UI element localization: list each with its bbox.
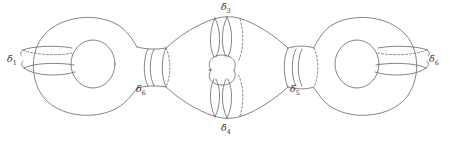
delta3-curve-a (210, 18, 215, 57)
left-neck-curve-a (144, 49, 148, 86)
figure-canvas: δ1 δ6 δ3 δ4 δ5 δ6 (0, 0, 450, 141)
label-delta-4-subscript: 4 (227, 128, 231, 136)
right-handle-upper-lip (378, 46, 427, 50)
left-handle-upper-lip (23, 46, 72, 50)
left-torus-hole (71, 40, 115, 88)
right-torus-outline-upper (314, 25, 332, 47)
label-delta-2: δ6 (136, 84, 146, 96)
delta4-dashed (238, 74, 243, 116)
left-handle-connector-upper (21, 50, 23, 56)
right-handle-lower-lip-bottom (375, 68, 426, 75)
label-delta-5: δ5 (290, 84, 300, 96)
left-neck-front-arc (162, 48, 166, 87)
delta3-curve-a2 (215, 18, 220, 57)
left-handle-connector-lower (22, 61, 24, 68)
right-neck-front-arc (284, 48, 288, 87)
center-hole-left-pinch (209, 69, 211, 70)
delta4-curve-b2 (227, 79, 232, 118)
center-top-outline (166, 17, 288, 48)
right-neck-dashed-ellipse (314, 48, 318, 87)
left-torus-outline (33, 17, 137, 115)
label-delta-1: δ1 (7, 54, 17, 66)
right-handle-lower-lip (376, 63, 426, 68)
right-torus-hole (335, 40, 379, 88)
label-delta-3-subscript: 3 (227, 7, 231, 15)
left-handle-lower-lip-bottom (24, 68, 75, 75)
left-torus-outline-upper (118, 25, 137, 47)
delta3-dashed (238, 19, 243, 62)
delta3-curve-b2 (227, 17, 232, 57)
center-hole-upper (209, 55, 235, 70)
label-delta-5-subscript: 5 (296, 89, 300, 97)
right-handle-upper-lip-dash (378, 50, 427, 55)
label-delta-4: δ4 (221, 123, 231, 135)
center-hole-lower (209, 70, 235, 85)
right-neck-curve-b (298, 49, 302, 86)
left-handle-lower-lip (24, 63, 74, 68)
delta3-curve-b (222, 17, 227, 57)
right-torus-outline (314, 17, 417, 115)
surface-diagram-svg (0, 0, 450, 141)
label-delta-2-subscript: 6 (142, 89, 146, 97)
center-bottom-outline (166, 87, 288, 118)
left-neck-dashed-ellipse (166, 48, 170, 87)
right-neck-top (288, 46, 314, 48)
left-neck-curve-b (150, 49, 154, 86)
delta4-curve-a (210, 79, 215, 117)
left-handle-upper-lip-dash (23, 50, 72, 55)
label-delta-6-subscript: 6 (435, 59, 439, 67)
right-neck-curve-a (292, 49, 296, 86)
label-delta-3: δ3 (221, 2, 231, 14)
left-neck-top (137, 47, 166, 49)
label-delta-1-subscript: 1 (13, 59, 17, 67)
label-delta-6: δ6 (429, 54, 439, 66)
